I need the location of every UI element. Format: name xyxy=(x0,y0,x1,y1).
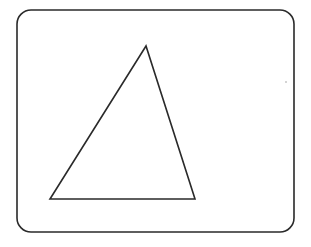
triangle-shape xyxy=(50,46,195,199)
noise-speck xyxy=(285,81,286,82)
diagram-canvas xyxy=(0,0,311,247)
